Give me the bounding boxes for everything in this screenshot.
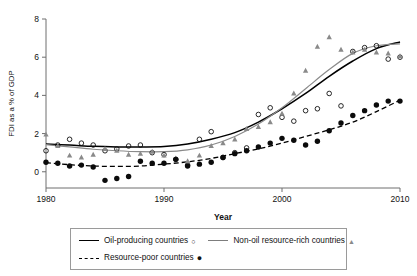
y-axis-title: FDI as a % of GDP <box>7 70 16 136</box>
filled-circle-marker-icon: ● <box>197 254 202 263</box>
chart-plot-area: 024681980199020002010YearFDI as a % of G… <box>0 0 417 226</box>
legend-label-non-oil-resource-rich: Non-oil resource-rich countries <box>233 237 344 245</box>
data-point-resource-poor <box>244 148 249 153</box>
triangle-marker-icon: ▲ <box>348 238 355 245</box>
y-tick-label: 8 <box>34 14 39 24</box>
data-point-resource-poor <box>268 140 273 145</box>
legend-line-solid-gray-icon <box>208 237 228 245</box>
data-point-non-oil-resource-rich <box>291 91 296 96</box>
data-point-non-oil-resource-rich <box>185 158 190 163</box>
data-point-resource-poor <box>303 142 308 147</box>
data-point-oil-producing <box>197 137 202 142</box>
y-tick-label: 0 <box>34 167 39 177</box>
data-point-resource-poor <box>91 164 96 169</box>
legend-line-solid-dark-icon <box>79 237 99 245</box>
data-point-oil-producing <box>209 129 214 134</box>
data-point-non-oil-resource-rich <box>327 34 332 39</box>
data-point-resource-poor <box>43 160 48 165</box>
data-point-resource-poor <box>197 161 202 166</box>
data-point-resource-poor <box>279 136 284 141</box>
data-point-resource-poor <box>232 151 237 156</box>
data-point-resource-poor <box>291 138 296 143</box>
data-point-oil-producing <box>315 106 320 111</box>
data-point-non-oil-resource-rich <box>315 44 320 49</box>
data-point-oil-producing <box>256 112 261 117</box>
legend-entry-non-oil-resource-rich[interactable]: Non-oil resource-rich countries ▲ <box>208 237 354 245</box>
data-point-resource-poor <box>338 120 343 125</box>
x-tick-label: 1980 <box>37 194 56 204</box>
y-tick-label: 2 <box>34 129 39 139</box>
data-point-resource-poor <box>350 113 355 118</box>
data-point-non-oil-resource-rich <box>79 155 84 160</box>
y-tick-label: 6 <box>34 52 39 62</box>
data-point-oil-producing <box>67 137 72 142</box>
x-tick-label: 1990 <box>155 194 174 204</box>
data-point-resource-poor <box>173 157 178 162</box>
legend-label-oil-producing: Oil-producing countries <box>104 237 188 245</box>
legend-row-2: Resource-poor countries ● <box>79 250 340 267</box>
data-point-oil-producing <box>303 108 308 113</box>
data-point-non-oil-resource-rich <box>338 47 343 52</box>
data-point-resource-poor <box>256 144 261 149</box>
data-point-non-oil-resource-rich <box>386 50 391 55</box>
open-circle-marker-icon: ○ <box>191 238 195 245</box>
legend-entry-resource-poor[interactable]: Resource-poor countries ● <box>79 254 202 263</box>
data-point-resource-poor <box>397 98 402 103</box>
data-point-non-oil-resource-rich <box>303 68 308 73</box>
data-point-resource-poor <box>386 98 391 103</box>
data-point-oil-producing <box>268 106 273 111</box>
data-point-resource-poor <box>55 160 60 165</box>
data-point-resource-poor <box>315 139 320 144</box>
data-point-resource-poor <box>209 160 214 165</box>
data-point-non-oil-resource-rich <box>67 153 72 158</box>
data-point-oil-producing <box>386 57 391 62</box>
data-point-oil-producing <box>292 119 297 124</box>
fit-line-oil-producing <box>46 42 400 147</box>
chart-legend: Oil-producing countries ○ Non-oil resour… <box>70 228 347 270</box>
data-point-oil-producing <box>79 141 84 146</box>
data-point-non-oil-resource-rich <box>268 119 273 124</box>
data-point-resource-poor <box>362 108 367 113</box>
data-point-non-oil-resource-rich <box>43 132 48 137</box>
data-point-non-oil-resource-rich <box>197 153 202 158</box>
data-point-resource-poor <box>79 162 84 167</box>
data-point-resource-poor <box>161 160 166 165</box>
data-point-non-oil-resource-rich <box>374 50 379 55</box>
data-point-resource-poor <box>185 163 190 168</box>
data-point-resource-poor <box>114 176 119 181</box>
x-tick-label: 2010 <box>391 194 410 204</box>
data-point-resource-poor <box>220 155 225 160</box>
legend-entry-oil-producing[interactable]: Oil-producing countries ○ <box>79 237 195 245</box>
data-point-oil-producing <box>339 104 344 109</box>
legend-line-dashed-dark-icon <box>79 255 99 263</box>
data-point-oil-producing <box>280 115 285 120</box>
data-point-resource-poor <box>126 174 131 179</box>
data-point-resource-poor <box>150 160 155 165</box>
x-tick-label: 2000 <box>273 194 292 204</box>
data-point-non-oil-resource-rich <box>91 152 96 157</box>
legend-label-resource-poor: Resource-poor countries <box>104 254 194 262</box>
legend-row-1: Oil-producing countries ○ Non-oil resour… <box>79 233 340 250</box>
data-point-resource-poor <box>327 128 332 133</box>
data-point-non-oil-resource-rich <box>279 111 284 116</box>
y-tick-label: 4 <box>34 90 39 100</box>
x-axis-title: Year <box>214 212 233 222</box>
data-point-resource-poor <box>67 163 72 168</box>
data-point-resource-poor <box>102 178 107 183</box>
data-point-resource-poor <box>138 159 143 164</box>
data-point-resource-poor <box>374 102 379 107</box>
data-point-oil-producing <box>327 91 332 96</box>
data-point-non-oil-resource-rich <box>126 152 131 157</box>
